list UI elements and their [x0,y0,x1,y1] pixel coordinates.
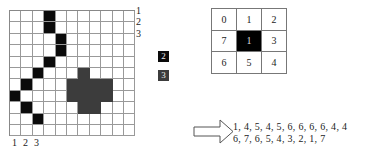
grid-cell [44,57,55,68]
grid-cell [44,114,55,125]
kernel-center-cell: 1 [237,31,262,53]
grid-cell [78,68,89,79]
grid-cell [124,34,135,45]
kernel-cell: 3 [262,31,287,53]
grid-cell [90,22,101,33]
grid-cell [113,34,124,45]
grid-cell [78,91,89,102]
grid-cell [78,57,89,68]
kernel-cell: 0 [212,9,237,31]
grid-cell [78,79,89,90]
grid-cell [67,34,78,45]
grid-cell [10,79,21,90]
col-label-2: 2 [23,138,28,148]
grid-cell [10,114,21,125]
grid-cell [101,57,112,68]
grid-cell [78,45,89,56]
grid-cell [101,125,112,136]
grid-cell [113,22,124,33]
grid-cell [101,11,112,22]
grid-cell [56,22,67,33]
grid-cell [10,68,21,79]
grid-cell [101,114,112,125]
grid-cell [56,11,67,22]
grid-cell [124,45,135,56]
legend-swatch-gray: 3 [158,70,169,81]
grid-cell [33,45,44,56]
grid-cell [124,68,135,79]
grid-cell [90,91,101,102]
grid-cell [78,11,89,22]
grid-cell [67,68,78,79]
grid-cell [90,125,101,136]
grid-cell [90,68,101,79]
grid-cell [56,125,67,136]
grid-cell [90,114,101,125]
grid-cell [101,34,112,45]
grid-cell [21,57,32,68]
grid-cell [113,114,124,125]
grid-cell [10,91,21,102]
grid-cell [21,11,32,22]
grid-cell [33,79,44,90]
grid-cell [56,68,67,79]
direction-kernel: 0 1 2 7 1 3 6 5 4 [211,8,287,74]
grid-cell [113,79,124,90]
grid-cell [21,79,32,90]
grid-cell [56,34,67,45]
grid-cell [101,91,112,102]
grid-cell [33,114,44,125]
grid-cell [33,34,44,45]
grid-cell [21,125,32,136]
grid-cell [113,68,124,79]
grid-cell [78,34,89,45]
grid-cell [44,11,55,22]
grid-cell [67,45,78,56]
col-label-1: 1 [12,138,17,148]
grid-cell [90,79,101,90]
grid-cell [90,57,101,68]
grid-cell [44,45,55,56]
grid-cell [101,79,112,90]
grid-cell [10,22,21,33]
row-label-2: 2 [136,17,141,27]
grid-cell [44,68,55,79]
grid-cell [113,91,124,102]
chain-code-line-1: 1, 4, 5, 4, 5, 6, 6, 6, 6, 4, 4 [233,121,347,133]
grid-cell [56,102,67,113]
row-label-3: 3 [136,29,141,39]
grid-cell [101,68,112,79]
grid-cell [67,22,78,33]
grid-cell [10,125,21,136]
grid-cell [44,125,55,136]
grid-cell [90,102,101,113]
grid-cell [124,57,135,68]
grid-cell [67,125,78,136]
grid-cell [113,57,124,68]
pixel-grid [9,10,135,136]
grid-cell [67,11,78,22]
grid-cell [56,57,67,68]
grid-cell [67,57,78,68]
grid-cell [33,22,44,33]
kernel-cell: 6 [212,52,237,74]
right-arrow-icon [193,119,235,144]
grid-cell [78,114,89,125]
grid-cell [44,22,55,33]
grid-cell [44,34,55,45]
grid-cell [113,125,124,136]
grid-cell [101,22,112,33]
grid-cell [21,114,32,125]
grid-cell [44,91,55,102]
col-label-3: 3 [34,138,39,148]
grid-cell [78,102,89,113]
grid-cell [124,79,135,90]
grid-cell [78,125,89,136]
grid-cell [56,91,67,102]
grid-cell [90,34,101,45]
grid-cell [21,68,32,79]
grid-cell [33,102,44,113]
grid-cell [56,114,67,125]
chain-code-sequence: 1, 4, 5, 4, 5, 6, 6, 6, 6, 4, 4 6, 7, 6,… [233,121,347,145]
kernel-cell: 7 [212,31,237,53]
